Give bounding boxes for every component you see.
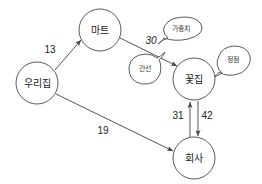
node-mart[interactable]: 마트	[79, 9, 121, 51]
edge-weight-flower-company: 42	[201, 110, 213, 121]
node-flower-label: 꽃집	[185, 74, 203, 85]
node-home[interactable]: 우리집	[16, 62, 58, 104]
edge-line-home-mart	[55, 40, 81, 70]
graph-diagram-canvas: 가중치 정점 간선 우리집 마트 꽃집 회사 13 30	[0, 0, 262, 184]
edge-home-company	[56, 94, 173, 151]
callout-vertex-label: 정점	[227, 55, 239, 64]
edge-line-home-company	[56, 94, 173, 151]
edge-weight-company-flower: 31	[172, 110, 184, 121]
edge-home-mart	[55, 40, 81, 70]
edge-weight-mart-flower: 30	[145, 35, 157, 46]
callout-vertex: 정점	[211, 46, 250, 79]
node-mart-label: 마트	[91, 25, 109, 36]
callout-weight-label: 가중치	[172, 24, 190, 33]
node-company[interactable]: 회사	[173, 137, 215, 179]
edge-weight-home-mart: 13	[44, 44, 56, 55]
node-company-label: 회사	[185, 153, 203, 164]
callout-edge: 간선	[129, 52, 165, 84]
callout-edge-label: 간선	[139, 64, 151, 73]
edge-weight-home-company: 19	[97, 125, 109, 136]
callout-weight: 가중치	[158, 17, 202, 44]
node-home-label: 우리집	[24, 78, 51, 89]
graph-svg: 가중치 정점 간선 우리집 마트 꽃집 회사 13 30	[0, 0, 262, 184]
node-flower[interactable]: 꽃집	[173, 58, 215, 100]
